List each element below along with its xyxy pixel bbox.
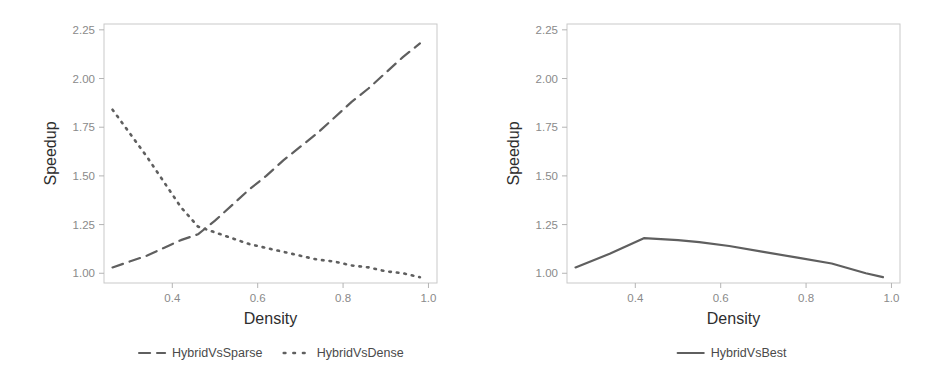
y-tick-label: 1.75	[73, 121, 95, 133]
plot-frame	[567, 24, 900, 283]
left-plot-canvas: 1.001.251.501.752.002.250.40.60.81.0Dens…	[0, 0, 471, 377]
y-tick-label: 2.25	[536, 24, 558, 36]
series-line-hybridvsbest	[576, 238, 883, 277]
y-tick-label: 2.00	[536, 73, 558, 85]
legend-label: HybridVsBest	[711, 346, 787, 360]
x-tick-label: 0.8	[798, 292, 814, 304]
x-axis-title: Density	[707, 310, 760, 327]
y-tick-label: 1.00	[73, 267, 95, 279]
y-axis-title: Speedup	[505, 121, 522, 185]
x-axis-title: Density	[244, 310, 297, 327]
y-tick-label: 1.25	[536, 219, 558, 231]
chart-panel-right: 1.001.251.501.752.002.250.40.60.81.0Dens…	[463, 0, 934, 377]
y-axis-title: Speedup	[42, 121, 59, 185]
y-tick-label: 1.50	[536, 170, 558, 182]
y-tick-label: 2.25	[73, 24, 95, 36]
x-tick-label: 0.4	[627, 292, 644, 304]
y-tick-label: 1.75	[536, 121, 558, 133]
right-plot-canvas: 1.001.251.501.752.002.250.40.60.81.0Dens…	[463, 0, 934, 377]
plot-frame	[104, 24, 437, 283]
legend-label: HybridVsSparse	[172, 346, 262, 360]
series-line-hybridvsdense	[113, 110, 420, 277]
y-tick-label: 1.50	[73, 170, 95, 182]
y-tick-label: 1.00	[536, 267, 558, 279]
y-tick-label: 1.25	[73, 219, 95, 231]
chart-panel-left: 1.001.251.501.752.002.250.40.60.81.0Dens…	[0, 0, 471, 377]
x-tick-label: 0.4	[164, 292, 181, 304]
x-tick-label: 0.6	[250, 292, 266, 304]
x-tick-label: 0.6	[713, 292, 729, 304]
x-tick-label: 1.0	[883, 292, 899, 304]
figure-speedup-vs-density: 1.001.251.501.752.002.250.40.60.81.0Dens…	[0, 0, 943, 377]
y-tick-label: 2.00	[73, 73, 95, 85]
x-tick-label: 1.0	[420, 292, 436, 304]
series-line-hybridvssparse	[113, 43, 420, 267]
legend-label: HybridVsDense	[317, 346, 404, 360]
x-tick-label: 0.8	[335, 292, 351, 304]
